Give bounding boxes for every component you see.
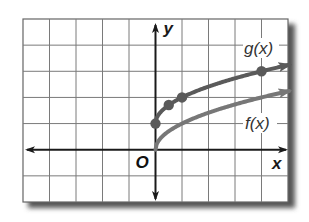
y-axis-label: y	[163, 19, 175, 38]
x-axis-label: x	[271, 154, 283, 173]
data-point	[256, 66, 266, 76]
graph: yxOg(x)f(x)	[0, 0, 309, 222]
origin-label: O	[136, 153, 149, 172]
data-point	[164, 100, 174, 110]
data-point	[177, 92, 187, 102]
g-function-label: g(x)	[244, 39, 273, 58]
data-point	[150, 118, 160, 128]
f-function-label: f(x)	[245, 114, 270, 133]
